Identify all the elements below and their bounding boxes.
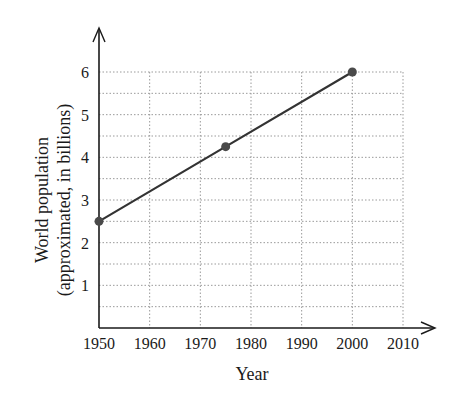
y-tick-label: 4 — [81, 149, 89, 166]
data-point-marker — [95, 217, 104, 226]
data-point-marker — [221, 142, 230, 151]
x-tick-label: 1970 — [184, 335, 216, 352]
y-tick-label: 2 — [81, 235, 89, 252]
line-chart: 1950196019701980199020002010 123456 Year… — [0, 0, 457, 396]
x-tick-label: 2010 — [387, 335, 419, 352]
x-axis-label: Year — [235, 364, 268, 384]
x-tick-label: 2000 — [336, 335, 368, 352]
x-tick-label: 1980 — [235, 335, 267, 352]
x-tick-labels: 1950196019701980199020002010 — [83, 335, 419, 352]
x-tick-label: 1960 — [134, 335, 166, 352]
x-tick-label: 1990 — [286, 335, 318, 352]
y-tick-label: 3 — [81, 192, 89, 209]
y-tick-label: 5 — [81, 107, 89, 124]
data-point-marker — [348, 68, 357, 77]
axes — [93, 28, 435, 334]
x-tick-label: 1950 — [83, 335, 115, 352]
y-tick-labels: 123456 — [81, 64, 89, 294]
y-tick-label: 6 — [81, 64, 89, 81]
grid — [99, 72, 403, 328]
data-series — [95, 68, 357, 226]
y-axis-label-line2: (approximated, in billions) — [54, 104, 75, 296]
y-axis-label-line1: World population — [32, 137, 52, 263]
y-tick-label: 1 — [81, 277, 89, 294]
